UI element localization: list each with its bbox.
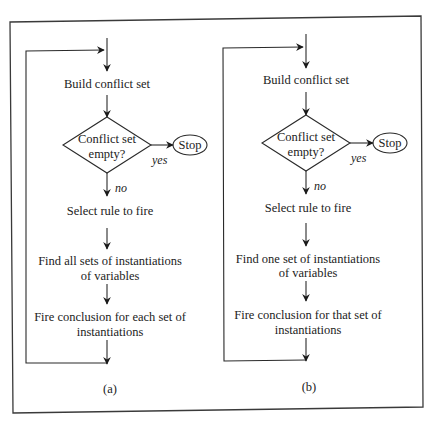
caption-a: (a) bbox=[103, 382, 117, 396]
decision-text-a-2: empty? bbox=[89, 147, 126, 161]
yes-label-a: yes bbox=[151, 153, 168, 167]
no-label-a: no bbox=[115, 181, 127, 195]
step-fire-a-2: instantiations bbox=[77, 325, 144, 339]
panel-a: Build conflict set Conflict set empty? y… bbox=[26, 38, 207, 396]
step-select-b: Select rule to fire bbox=[265, 201, 352, 215]
step-fire-b-2: instantiations bbox=[275, 323, 342, 337]
step-select-a: Select rule to fire bbox=[67, 204, 154, 218]
caption-b: (b) bbox=[302, 380, 317, 394]
step-fire-b-1: Fire conclusion for that set of bbox=[234, 308, 382, 322]
step-fire-a-1: Fire conclusion for each set of bbox=[34, 310, 187, 324]
step-build-b: Build conflict set bbox=[263, 73, 350, 87]
flowchart-figure: Build conflict set Conflict set empty? y… bbox=[0, 0, 431, 425]
step-find-a-1: Find all sets of instantiations bbox=[38, 254, 182, 268]
panel-b: Build conflict set Conflict set empty? y… bbox=[223, 34, 407, 394]
decision-text-b-1: Conflict set bbox=[277, 130, 336, 144]
stop-label-a: Stop bbox=[179, 138, 202, 152]
step-find-b-2: of variables bbox=[279, 266, 338, 280]
decision-text-b-2: empty? bbox=[288, 145, 325, 159]
yes-label-b: yes bbox=[350, 151, 367, 165]
step-build-a: Build conflict set bbox=[64, 77, 151, 91]
stop-label-b: Stop bbox=[379, 136, 402, 150]
step-find-b-1: Find one set of instantiations bbox=[236, 252, 381, 266]
step-find-a-2: of variables bbox=[81, 269, 140, 283]
decision-text-a-1: Conflict set bbox=[78, 132, 137, 146]
no-label-b: no bbox=[314, 179, 326, 193]
